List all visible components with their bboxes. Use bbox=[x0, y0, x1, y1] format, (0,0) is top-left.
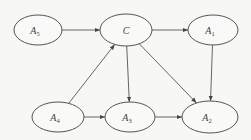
node-c: C bbox=[100, 14, 152, 46]
diagram-canvas: A5CA1A4A3A2 bbox=[0, 0, 251, 140]
node-a5: A5 bbox=[14, 15, 62, 45]
nodes: A5CA1A4A3A2 bbox=[14, 14, 238, 133]
node-a1: A1 bbox=[188, 15, 238, 45]
node-a2: A2 bbox=[182, 101, 238, 133]
node-label: C bbox=[123, 25, 130, 36]
node-a4: A4 bbox=[32, 102, 84, 132]
edge-c-to-a3 bbox=[127, 46, 130, 102]
edge-a4-to-c bbox=[69, 44, 115, 103]
edge-a1-to-a2 bbox=[211, 45, 213, 101]
edge-c-to-a2 bbox=[139, 44, 196, 103]
node-a3: A3 bbox=[105, 102, 155, 132]
